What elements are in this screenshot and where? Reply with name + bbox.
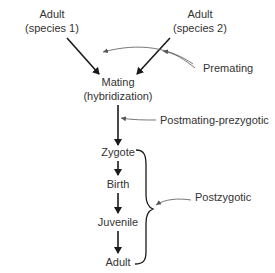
birth-label: Birth — [107, 178, 130, 190]
adult-species-1-sublabel: (species 1) — [25, 22, 79, 34]
node-mating: Mating (hybridization) — [83, 76, 152, 102]
adult-label: Adult — [105, 256, 130, 268]
arrow-species1-to-mating — [67, 38, 99, 74]
postmating-prezygotic-pointer-icon — [121, 118, 156, 120]
premating-label: Premating — [203, 62, 253, 74]
postzygotic-pointer-icon — [156, 199, 191, 205]
mating-sublabel: (hybridization) — [83, 90, 152, 102]
postzygotic-label: Postzygotic — [195, 191, 252, 203]
zygote-label: Zygote — [101, 146, 135, 158]
node-adult-species-2: Adult (species 2) — [173, 8, 227, 34]
postzygotic-brace-icon — [135, 150, 153, 264]
adult-species-2-sublabel: (species 2) — [173, 22, 227, 34]
mating-label: Mating — [101, 76, 134, 88]
adult-species-1-label: Adult — [39, 8, 64, 20]
premating-pointer-icon — [163, 51, 195, 68]
arrow-species2-to-mating — [137, 38, 170, 74]
reproductive-isolation-diagram: Adult (species 1) Adult (species 2) Prem… — [0, 0, 275, 273]
adult-species-2-label: Adult — [187, 8, 212, 20]
juvenile-label: Juvenile — [98, 216, 138, 228]
postmating-prezygotic-label: Postmating-prezygotic — [160, 114, 269, 126]
node-adult-species-1: Adult (species 1) — [25, 8, 79, 34]
